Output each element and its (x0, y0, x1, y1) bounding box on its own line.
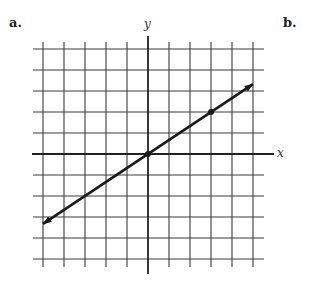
coordinate-grid (0, 0, 312, 282)
marked-point (208, 109, 214, 115)
marked-point (145, 151, 151, 157)
